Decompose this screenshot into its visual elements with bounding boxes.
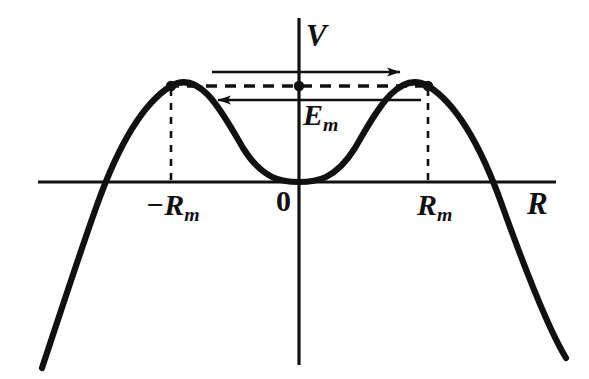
center-energy-point-dot	[294, 81, 304, 91]
energy-level-label: Em	[303, 100, 338, 134]
r-axis-label: R	[527, 188, 548, 219]
potential-curve-figure: V R Em −Rm 0 Rm	[0, 0, 589, 379]
origin-label: 0	[276, 186, 291, 216]
tick-label-negative-rm: −Rm	[146, 190, 200, 224]
plot-canvas	[0, 0, 589, 379]
right-barrier-maximum-dot	[423, 81, 433, 91]
tick-label-positive-rm: Rm	[417, 190, 452, 224]
left-barrier-maximum-dot	[166, 81, 176, 91]
v-axis-label: V	[306, 20, 327, 51]
